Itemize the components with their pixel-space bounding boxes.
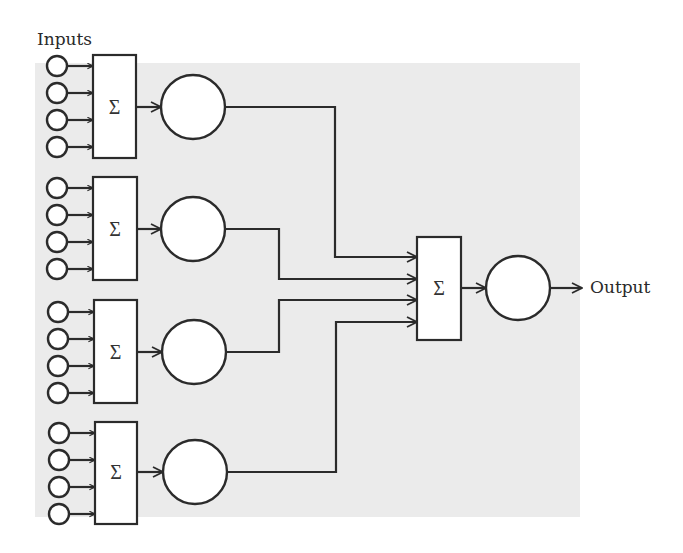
- input-node: [47, 232, 67, 252]
- hidden-neuron: [161, 75, 225, 139]
- input-node: [47, 205, 67, 225]
- subnetwork-group-3: Σ: [48, 300, 226, 403]
- route-group-2: [225, 229, 417, 279]
- sum-symbol: Σ: [109, 96, 121, 118]
- sum-symbol: Σ: [110, 461, 122, 483]
- hidden-neuron: [162, 320, 226, 384]
- input-node: [47, 137, 67, 157]
- input-node: [48, 302, 68, 322]
- diagram-canvas: Inputs ΣΣΣΣ Σ Output: [0, 0, 683, 553]
- input-node: [48, 356, 68, 376]
- output-neuron: [486, 256, 550, 320]
- combiner-unit: Σ: [417, 237, 582, 340]
- sum-symbol: Σ: [109, 218, 121, 240]
- input-node: [49, 477, 69, 497]
- input-node: [49, 450, 69, 470]
- connection-routes: [225, 107, 417, 472]
- route-group-3: [226, 300, 417, 352]
- input-node: [49, 423, 69, 443]
- route-group-4: [227, 322, 417, 472]
- sum-symbol: Σ: [110, 341, 122, 363]
- subnetwork-group-4: Σ: [49, 422, 227, 524]
- input-node: [47, 56, 67, 76]
- combiner-sum-symbol: Σ: [433, 277, 445, 299]
- input-node: [47, 110, 67, 130]
- route-group-1: [225, 107, 417, 257]
- input-node: [48, 383, 68, 403]
- input-node: [49, 504, 69, 524]
- neural-network-ensemble-diagram: Inputs ΣΣΣΣ Σ Output: [0, 0, 683, 553]
- hidden-neuron: [163, 440, 227, 504]
- inputs-label: Inputs: [37, 29, 92, 49]
- input-node: [47, 259, 67, 279]
- output-label: Output: [590, 277, 651, 297]
- input-node: [47, 178, 67, 198]
- input-node: [47, 83, 67, 103]
- input-node: [48, 329, 68, 349]
- subnetwork-group-1: Σ: [47, 55, 225, 158]
- subnetwork-groups: ΣΣΣΣ: [47, 55, 227, 524]
- hidden-neuron: [161, 197, 225, 261]
- subnetwork-group-2: Σ: [47, 177, 225, 280]
